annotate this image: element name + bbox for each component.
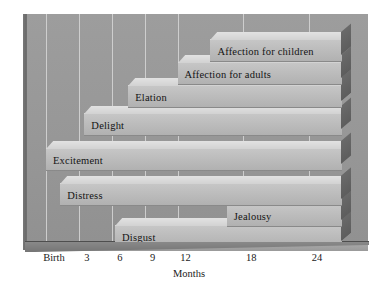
bar-distress[interactable]: Distress bbox=[60, 183, 342, 206]
x-axis-title: Months bbox=[0, 268, 378, 279]
bar-disgust[interactable]: Disgust bbox=[115, 225, 342, 242]
bar-label: Disgust bbox=[122, 231, 156, 242]
plot-left-wall bbox=[23, 14, 26, 250]
bar-elation[interactable]: Elation bbox=[128, 85, 342, 108]
bar-label: Elation bbox=[135, 91, 167, 102]
x-tick-18: 18 bbox=[246, 252, 257, 263]
x-tick-3: 3 bbox=[84, 252, 89, 263]
bar-label: Excitement bbox=[53, 154, 103, 165]
bar-excitement[interactable]: Excitement bbox=[46, 148, 342, 171]
bar-jealousy[interactable]: Jealousy bbox=[227, 204, 342, 227]
bar-top-face bbox=[210, 32, 349, 40]
x-tick-9: 9 bbox=[150, 252, 155, 263]
bar-label: Delight bbox=[91, 119, 124, 130]
bar-side-face bbox=[341, 98, 351, 129]
x-tick-6: 6 bbox=[117, 252, 122, 263]
bar-affection-for-children[interactable]: Affection for children bbox=[210, 39, 342, 62]
x-tick-24: 24 bbox=[312, 252, 323, 263]
bar-side-face bbox=[341, 133, 351, 164]
bar-affection-for-adults[interactable]: Affection for adults bbox=[178, 62, 342, 85]
bar-top-face bbox=[46, 141, 349, 149]
bar-label: Affection for children bbox=[217, 45, 313, 56]
x-tick-birth: Birth bbox=[43, 252, 65, 263]
bar-top-face bbox=[60, 176, 349, 184]
emotional-development-chart: Affection for childrenAffection for adul… bbox=[0, 0, 378, 287]
x-tick-12: 12 bbox=[180, 252, 191, 263]
bar-delight[interactable]: Delight bbox=[84, 113, 342, 136]
bar-label: Affection for adults bbox=[185, 68, 272, 79]
bar-label: Jealousy bbox=[234, 210, 272, 221]
plot-area: Affection for childrenAffection for adul… bbox=[25, 14, 368, 242]
gridline-3 bbox=[79, 14, 80, 242]
gridline-birth bbox=[46, 14, 47, 242]
bar-label: Distress bbox=[67, 189, 102, 200]
